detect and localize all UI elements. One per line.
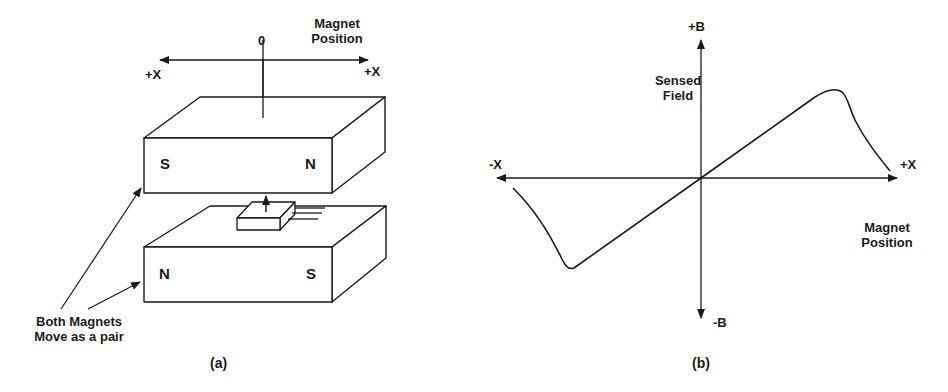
sensed-field-title-line2: Field	[646, 88, 710, 103]
top-magnet	[144, 97, 385, 193]
left-x-label: +X	[145, 67, 161, 82]
graph-position-title-line2: Position	[852, 235, 922, 250]
magnets-annotation-line2: Move as a pair	[24, 329, 134, 344]
position-axis-title: Magnet Position	[302, 16, 372, 46]
minus-x-label: -X	[489, 157, 502, 172]
bottom-magnet-north-pole: N	[159, 266, 170, 281]
sensed-field-title: Sensed Field	[646, 73, 710, 103]
magnets-annotation-line1: Both Magnets	[24, 314, 134, 329]
figure-canvas	[0, 0, 948, 392]
annotation-arrows	[61, 188, 141, 309]
top-magnet-south-pole: S	[160, 156, 170, 171]
plus-x-label: +X	[900, 157, 916, 172]
bottom-magnet-south-pole: S	[306, 266, 316, 281]
caption-a: (a)	[210, 356, 227, 371]
graph-position-title: Magnet Position	[852, 220, 922, 250]
zero-label: 0	[258, 33, 265, 48]
sensed-field-title-line1: Sensed	[646, 73, 710, 88]
position-axis-title-line2: Position	[302, 31, 372, 46]
graph-position-title-line1: Magnet	[852, 220, 922, 235]
position-axis-title-line1: Magnet	[302, 16, 372, 31]
plus-b-label: +B	[688, 19, 705, 34]
top-magnet-north-pole: N	[305, 156, 316, 171]
minus-b-label: -B	[713, 315, 727, 330]
caption-b: (b)	[692, 356, 710, 371]
magnets-annotation: Both Magnets Move as a pair	[24, 314, 134, 344]
right-x-label: +X	[364, 64, 380, 79]
